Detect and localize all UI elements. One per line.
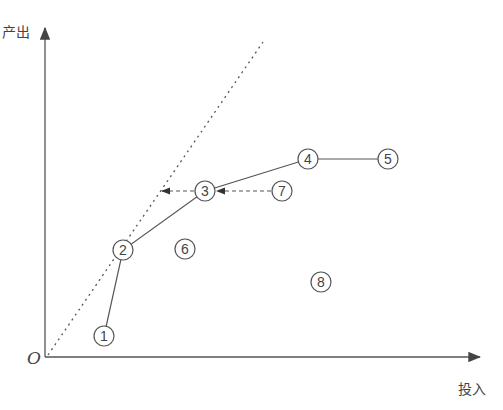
node-label: 4 xyxy=(304,151,312,167)
node-label: 7 xyxy=(278,183,286,199)
frontier-line xyxy=(104,159,388,336)
y-axis-label: 产出 xyxy=(2,21,30,41)
node-1: 1 xyxy=(94,326,114,346)
node-label: 8 xyxy=(317,274,325,290)
node-label: 2 xyxy=(119,242,127,258)
node-6: 6 xyxy=(175,239,195,259)
node-5: 5 xyxy=(378,149,398,169)
node-label: 6 xyxy=(181,241,189,257)
node-label: 1 xyxy=(100,328,108,344)
node-8: 8 xyxy=(311,272,331,292)
node-label: 3 xyxy=(201,183,209,199)
node-2: 2 xyxy=(113,240,133,260)
node-7: 7 xyxy=(272,181,292,201)
node-4: 4 xyxy=(298,149,318,169)
production-frontier-diagram: 1 2 3 4 5 6 7 8 xyxy=(0,0,503,410)
x-axis-label: 投入 xyxy=(458,378,486,398)
efficiency-ray xyxy=(48,42,263,355)
origin-label: O xyxy=(27,348,41,368)
node-label: 5 xyxy=(384,151,392,167)
node-3: 3 xyxy=(195,181,215,201)
